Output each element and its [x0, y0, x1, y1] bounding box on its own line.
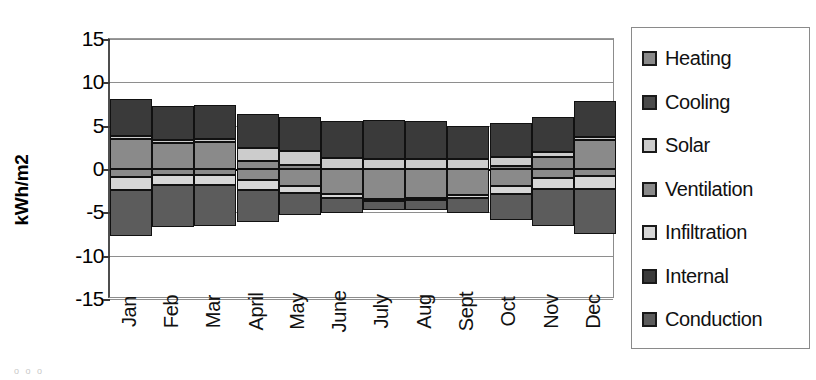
legend-item[interactable]: Conduction	[642, 298, 803, 342]
bar-segment[interactable]	[194, 139, 236, 142]
legend-item[interactable]: Heating	[642, 37, 803, 81]
bar-segment[interactable]	[405, 121, 447, 158]
legend-swatch-icon	[642, 312, 657, 327]
bar-segment[interactable]	[447, 126, 489, 160]
bar-segment[interactable]	[279, 169, 321, 186]
bar-segment[interactable]	[405, 169, 447, 198]
bar-group[interactable]	[110, 39, 152, 297]
bar-segment[interactable]	[574, 137, 616, 140]
bar-segment[interactable]	[363, 120, 405, 158]
bar-segment[interactable]	[321, 198, 363, 213]
legend: HeatingCoolingSolarVentilationInfiltrati…	[631, 27, 810, 349]
bar-segment[interactable]	[237, 169, 279, 180]
y-tick-label: 10	[44, 71, 104, 92]
bar-segment[interactable]	[447, 159, 489, 169]
legend-item[interactable]: Infiltration	[642, 211, 803, 255]
x-tick-label-text: Feb	[160, 295, 183, 328]
legend-item[interactable]: Solar	[642, 124, 803, 168]
x-tick-label-text: Dec	[581, 294, 604, 328]
bar-group[interactable]	[152, 39, 194, 297]
bar-segment[interactable]	[194, 142, 236, 169]
bar-group[interactable]	[237, 39, 279, 297]
bar-group[interactable]	[405, 39, 447, 297]
legend-item[interactable]: Ventilation	[642, 168, 803, 212]
bar-segment[interactable]	[405, 200, 447, 210]
bar-segment[interactable]	[363, 159, 405, 169]
bar-group[interactable]	[279, 39, 321, 297]
bar-segment[interactable]	[110, 190, 152, 236]
bar-segment[interactable]	[490, 186, 532, 194]
bar-segment[interactable]	[447, 198, 489, 214]
x-tick-label: Nov	[530, 300, 572, 378]
bar-segment[interactable]	[490, 157, 532, 167]
bar-segment[interactable]	[110, 136, 152, 139]
bar-group[interactable]	[574, 39, 616, 297]
bar-segment[interactable]	[490, 123, 532, 157]
bar-segment[interactable]	[321, 169, 363, 194]
bar-group[interactable]	[321, 39, 363, 297]
y-tick-label: 0	[44, 158, 104, 179]
bar-segment[interactable]	[490, 194, 532, 220]
bar-segment[interactable]	[574, 101, 616, 137]
bar-segment[interactable]	[532, 157, 574, 169]
bar-segment[interactable]	[152, 185, 194, 227]
bar-segment[interactable]	[532, 169, 574, 178]
bar-segment[interactable]	[194, 105, 236, 139]
bar-segment[interactable]	[237, 114, 279, 149]
bar-segment[interactable]	[363, 201, 405, 210]
y-tick-mark	[103, 212, 110, 214]
bar-segment[interactable]	[279, 151, 321, 165]
bar-segment[interactable]	[490, 169, 532, 186]
bar-segment[interactable]	[532, 189, 574, 226]
bar-segment[interactable]	[110, 99, 152, 135]
bar-group[interactable]	[532, 39, 574, 297]
legend-swatch-icon	[642, 182, 657, 197]
x-tick-label-text: June	[328, 291, 351, 333]
bar-group[interactable]	[194, 39, 236, 297]
x-tick-label: May	[277, 300, 319, 378]
bar-segment[interactable]	[321, 121, 363, 157]
bar-segment[interactable]	[237, 180, 279, 190]
bar-segment[interactable]	[279, 117, 321, 151]
x-tick-label-text: May	[286, 293, 309, 330]
bar-segment[interactable]	[152, 143, 194, 169]
bar-segment[interactable]	[574, 140, 616, 169]
chart-figure: kWh/m2 151050-5-10-15 JanFebMarAprilMayJ…	[0, 0, 816, 380]
bar-segment[interactable]	[363, 169, 405, 199]
x-tick-label: July	[361, 300, 403, 378]
bar-group[interactable]	[447, 39, 489, 297]
legend-item[interactable]: Internal	[642, 255, 803, 299]
bar-segment[interactable]	[237, 161, 279, 169]
bar-segment[interactable]	[237, 148, 279, 161]
bar-segment[interactable]	[110, 169, 152, 177]
bar-segment[interactable]	[152, 140, 194, 143]
x-tick-label: Aug	[403, 300, 445, 378]
y-tick-label: 5	[44, 114, 104, 135]
legend-item-label: Conduction	[665, 308, 762, 331]
bar-segment[interactable]	[574, 169, 616, 176]
bar-segment[interactable]	[279, 186, 321, 193]
bar-segment[interactable]	[279, 193, 321, 215]
bar-group[interactable]	[490, 39, 532, 297]
bar-segment[interactable]	[405, 159, 447, 169]
bar-segment[interactable]	[110, 177, 152, 190]
bar-segment[interactable]	[532, 178, 574, 189]
x-tick-label-text: Mar	[202, 295, 225, 328]
bar-segment[interactable]	[447, 169, 489, 195]
bar-segment[interactable]	[152, 175, 194, 185]
legend-swatch-icon	[642, 269, 657, 284]
bar-segment[interactable]	[194, 175, 236, 185]
bar-segment[interactable]	[194, 185, 236, 226]
bar-group[interactable]	[363, 39, 405, 297]
bar-segment[interactable]	[532, 117, 574, 152]
bar-segment[interactable]	[574, 176, 616, 189]
x-tick-label: Dec	[572, 300, 614, 378]
bar-segment[interactable]	[152, 106, 194, 140]
bar-segment[interactable]	[532, 152, 574, 157]
bar-segment[interactable]	[237, 190, 279, 222]
bar-segment[interactable]	[321, 158, 363, 169]
legend-item[interactable]: Cooling	[642, 81, 803, 125]
x-tick-label-text: Nov	[539, 294, 562, 328]
bar-segment[interactable]	[574, 189, 616, 234]
bar-segment[interactable]	[110, 139, 152, 169]
